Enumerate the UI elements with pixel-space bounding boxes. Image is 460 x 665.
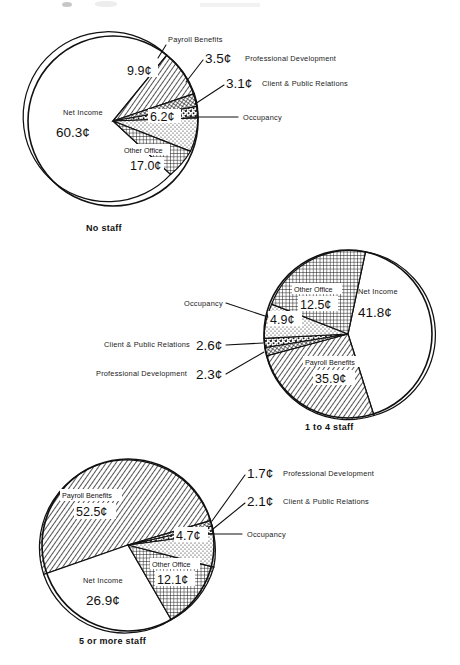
client-callout-label: Client & Public Relations [283, 497, 369, 506]
occupancy-value: 4.7¢ [176, 529, 200, 543]
net-income-value: 41.8¢ [358, 305, 392, 320]
occupancy-callout-label: Occupancy [184, 299, 223, 308]
net-income-label: Net Income [83, 576, 123, 585]
scan-artifact-streak [200, 3, 260, 7]
payroll-label: Payroll Benefits [305, 358, 355, 367]
client-callout-value: 2.1¢ [247, 494, 273, 509]
chart-caption-1-to-4-staff: 1 to 4 staff [305, 422, 354, 432]
occupancy-callout-label: Occupancy [243, 113, 282, 122]
occupancy-callout-label: Occupancy [247, 530, 286, 539]
other-office-value: 17.0¢ [130, 159, 161, 173]
payroll-callout-label: Payroll Benefits [168, 35, 223, 44]
occupancy-value: 4.9¢ [270, 313, 294, 327]
payroll-value: 35.9¢ [315, 372, 346, 386]
payroll-label: Payroll Benefits [62, 491, 112, 500]
chart-5-or-more-staff: Payroll Benefits 52.5¢ Net Income 26.9¢ … [39, 459, 374, 646]
payroll-value: 9.9¢ [127, 64, 151, 78]
chart-no-staff: Net Income 60.3¢ 9.9¢ 6.2¢ Other Office … [23, 32, 348, 233]
profdev-callout-label: Professional Development [283, 469, 374, 478]
chart-caption-5-or-more-staff: 5 or more staff [79, 636, 147, 646]
pie-chart-figure: Net Income 60.3¢ 9.9¢ 6.2¢ Other Office … [0, 0, 460, 665]
net-income-label: Net Income [358, 287, 398, 296]
scan-artifact [95, 1, 117, 7]
profdev-callout-label: Professional Development [96, 369, 187, 378]
client-leader [213, 503, 245, 529]
other-office-value: 12.5¢ [300, 298, 331, 312]
payroll-value: 52.5¢ [76, 505, 107, 519]
occupancy-value: 6.2¢ [150, 110, 174, 124]
client-leader [226, 343, 263, 345]
profdev-callout-label: Professional Development [245, 54, 336, 63]
figure-canvas: Net Income 60.3¢ 9.9¢ 6.2¢ Other Office … [0, 0, 460, 665]
scan-artifact-mark [62, 2, 72, 7]
other-office-label: Other Office [152, 560, 191, 569]
client-callout-label: Client & Public Relations [104, 340, 190, 349]
chart-caption-no-staff: No staff [86, 223, 123, 233]
other-office-label: Other Office [294, 285, 333, 294]
net-income-value: 26.9¢ [86, 593, 120, 608]
profdev-callout-value: 2.3¢ [196, 367, 222, 382]
profdev-callout-value: 3.5¢ [205, 51, 231, 66]
profdev-leader [226, 352, 264, 374]
other-office-value: 12.1¢ [157, 573, 188, 587]
profdev-leader [212, 475, 245, 521]
chart-1-to-4-staff: Net Income 41.8¢ Payroll Benefits 35.9¢ … [96, 250, 435, 432]
client-callout-label: Client & Public Relations [262, 79, 348, 88]
client-callout-value: 3.1¢ [226, 76, 252, 91]
occupancy-leader [226, 303, 268, 317]
client-leader [195, 85, 224, 104]
net-income-label: Net Income [63, 108, 103, 117]
other-office-label: Other Office [124, 146, 163, 155]
profdev-callout-value: 1.7¢ [247, 466, 273, 481]
client-callout-value: 2.6¢ [196, 338, 222, 353]
net-income-value: 60.3¢ [56, 125, 90, 140]
profdev-leader [186, 60, 203, 82]
